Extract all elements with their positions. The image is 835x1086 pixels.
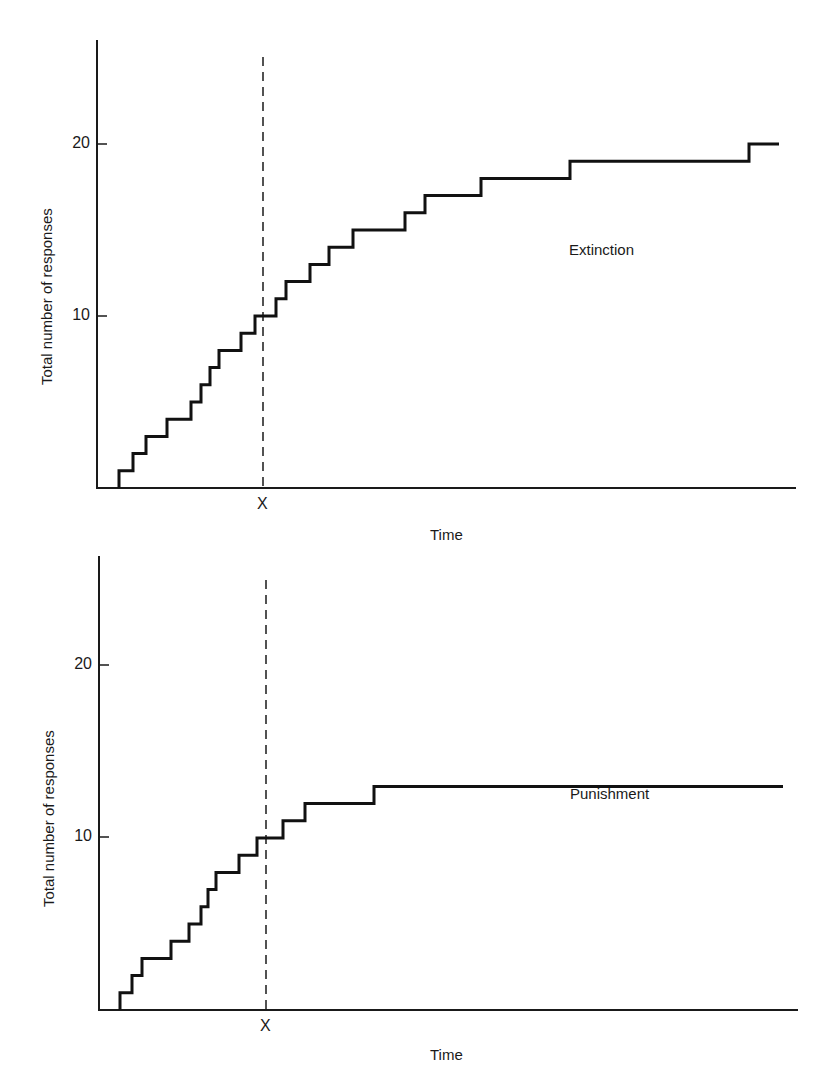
cumulative-record-line <box>120 786 783 1010</box>
x-marker-label: X <box>257 495 268 513</box>
x-marker-label: X <box>260 1017 271 1035</box>
punishment-plot <box>0 543 835 1086</box>
y-tick-label-10: 10 <box>52 827 92 845</box>
y-tick-label-20: 20 <box>52 655 92 673</box>
punishment-chart: Total number of responses 20 10 X Time P… <box>0 543 835 1086</box>
extinction-chart: Total number of responses 20 10 X Time E… <box>0 0 835 543</box>
y-tick-label-20: 20 <box>50 134 90 152</box>
series-label-extinction: Extinction <box>569 241 634 258</box>
x-axis-label: Time <box>430 1046 463 1063</box>
extinction-plot <box>0 0 835 543</box>
x-axis-label: Time <box>430 526 463 543</box>
series-label-punishment: Punishment <box>570 785 649 802</box>
cumulative-record-line <box>119 144 779 488</box>
y-axis-label: Total number of responses <box>40 730 57 907</box>
y-axis-label: Total number of responses <box>38 208 55 385</box>
y-tick-label-10: 10 <box>50 306 90 324</box>
